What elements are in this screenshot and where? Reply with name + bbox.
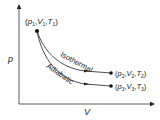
start-point-label: (p1,V1,T1) [25,17,58,27]
start-point [35,29,39,33]
y-axis-label: p [7,54,13,64]
isothermal-end-label: (p2,V2,T2) [115,69,147,79]
isothermal-end-point [109,71,113,75]
adiabatic-label: Adiabatic [45,61,76,86]
x-axis-label: V [84,107,91,117]
pv-diagram: p V Isothermal Adiabatic (p1,V1,T1) (p2,… [0,0,160,120]
adiabatic-arrow-icon [84,83,89,86]
adiabatic-end-label: (p3,V3,T3) [115,82,147,92]
adiabatic-end-point [109,84,113,88]
